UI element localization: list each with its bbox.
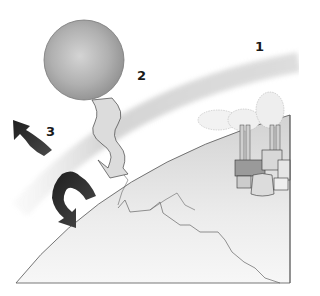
- label-1: 1: [255, 40, 264, 53]
- sun: [44, 20, 124, 100]
- incoming-radiation-arrow: [92, 98, 128, 178]
- label-2: 2: [137, 69, 146, 82]
- label-3: 3: [46, 125, 55, 138]
